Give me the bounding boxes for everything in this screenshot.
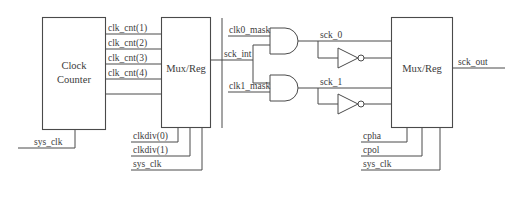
signal-label-clkdiv-0: clkdiv(0) [133, 131, 168, 142]
schematic-svg: Clock Counter Mux/Reg Mux/Reg clk_cnt(1)… [0, 0, 510, 198]
and-gate-0 [270, 28, 298, 54]
signal-label-cpha: cpha [363, 131, 382, 141]
signal-label-sys-clk-right: sys_clk [363, 159, 392, 169]
signal-label-clk-cnt-2: clk_cnt(2) [108, 38, 147, 49]
signal-label-clk-cnt-4: clk_cnt(4) [108, 68, 147, 79]
inverter-1-bubble [358, 101, 364, 107]
block-label-mux-reg-left: Mux/Reg [166, 63, 206, 74]
signal-label-clk1-mask: clk1_mask [229, 81, 270, 91]
signal-label-sck-out: sck_out [458, 57, 488, 67]
block-label-mux-reg-right: Mux/Reg [402, 63, 442, 74]
signal-label-clk-cnt-1: clk_cnt(1) [108, 23, 147, 34]
inverter-0 [338, 48, 358, 68]
signal-label-clk0-mask: clk0_mask [229, 25, 270, 35]
and-gate-1 [270, 75, 298, 101]
schematic-canvas: Clock Counter Mux/Reg Mux/Reg clk_cnt(1)… [0, 0, 510, 198]
signal-label-sys-clk-left: sys_clk [34, 137, 63, 147]
inverter-0-bubble [358, 55, 364, 61]
signal-label-clk-cnt-3: clk_cnt(3) [108, 53, 147, 64]
wire-sck-0-to-inverter [318, 41, 338, 58]
signal-label-sck-int: sck_int [224, 49, 252, 59]
signal-label-sck-0: sck_0 [320, 30, 342, 40]
block-label-clock-counter-line2: Counter [57, 74, 91, 85]
block-label-clock-counter-line1: Clock [61, 60, 87, 71]
signal-label-sck-1: sck_1 [320, 77, 342, 87]
wire-sck-int-to-and1 [253, 60, 270, 83]
signal-label-clkdiv-1: clkdiv(1) [133, 145, 168, 156]
signal-label-cpol: cpol [363, 145, 380, 155]
signal-label-sys-clk-mid: sys_clk [133, 159, 162, 169]
inverter-1 [338, 94, 358, 114]
wire-sck-1-to-inverter [318, 88, 338, 104]
